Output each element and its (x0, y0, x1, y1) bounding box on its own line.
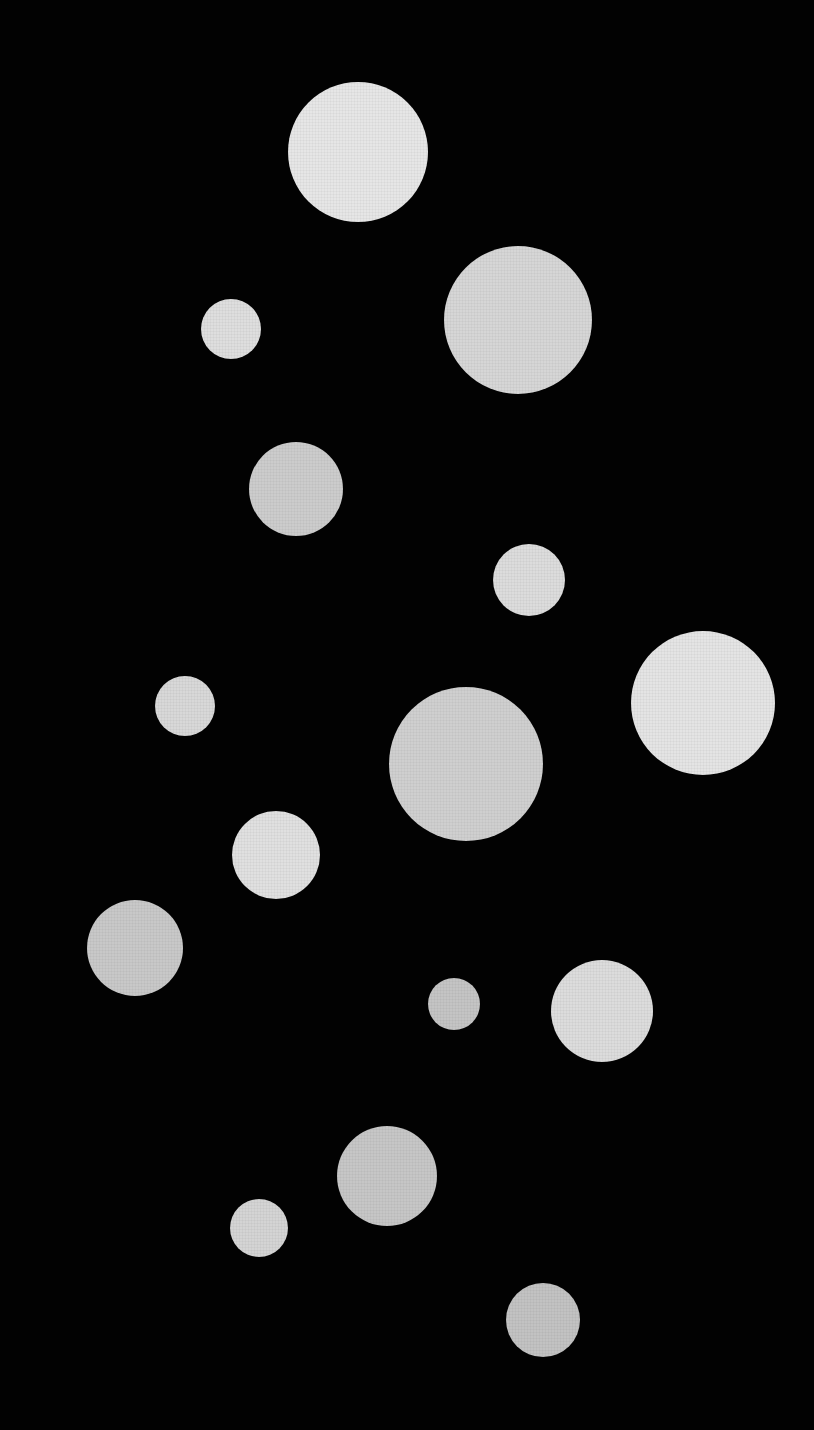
fabric-circle (230, 1199, 288, 1257)
fabric-circle (201, 299, 261, 359)
fabric-circle (389, 687, 543, 841)
fabric-circle (631, 631, 775, 775)
fabric-circle (506, 1283, 580, 1357)
photo-canvas (0, 0, 814, 1430)
fabric-circle (87, 900, 183, 996)
fabric-circle (493, 544, 565, 616)
fabric-circle (249, 442, 343, 536)
fabric-circle (288, 82, 428, 222)
fabric-circle (337, 1126, 437, 1226)
fabric-circle (232, 811, 320, 899)
fabric-circle (444, 246, 592, 394)
fabric-circle (155, 676, 215, 736)
fabric-circle (428, 978, 480, 1030)
fabric-circle (551, 960, 653, 1062)
